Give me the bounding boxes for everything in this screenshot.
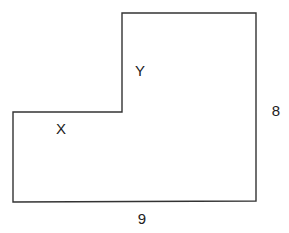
region-label-y: Y (135, 62, 145, 79)
region-label-x: X (56, 120, 66, 137)
height-dimension-label: 8 (272, 102, 280, 119)
l-shape-outline (13, 13, 256, 202)
width-dimension-label: 9 (138, 210, 146, 227)
l-shape-diagram: Y X 8 9 (0, 0, 289, 233)
